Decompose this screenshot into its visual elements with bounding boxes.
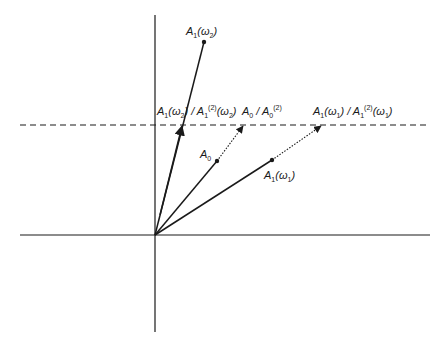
label-ratio-omega1: A1(ω1) / A1(2)(ω1)	[313, 104, 392, 119]
label-a0: A0	[200, 149, 211, 162]
label-a1-omega1: A1(ω1)	[264, 170, 295, 183]
point-a1-omega2	[202, 40, 206, 44]
label-ratio-a0: A0 / A0(2)	[242, 104, 282, 119]
vector-a1-omega1	[155, 160, 272, 235]
vector-normalized-omega1	[272, 126, 321, 160]
vector-normalized-a0	[217, 126, 243, 161]
phasor-diagram	[0, 0, 447, 347]
label-a1-omega2: A1(ω2)	[186, 26, 217, 39]
vector-normalized-omega2	[160, 126, 182, 215]
label-ratio-omega2: A1(ω2) / A1(2)(ω2)	[157, 104, 236, 119]
